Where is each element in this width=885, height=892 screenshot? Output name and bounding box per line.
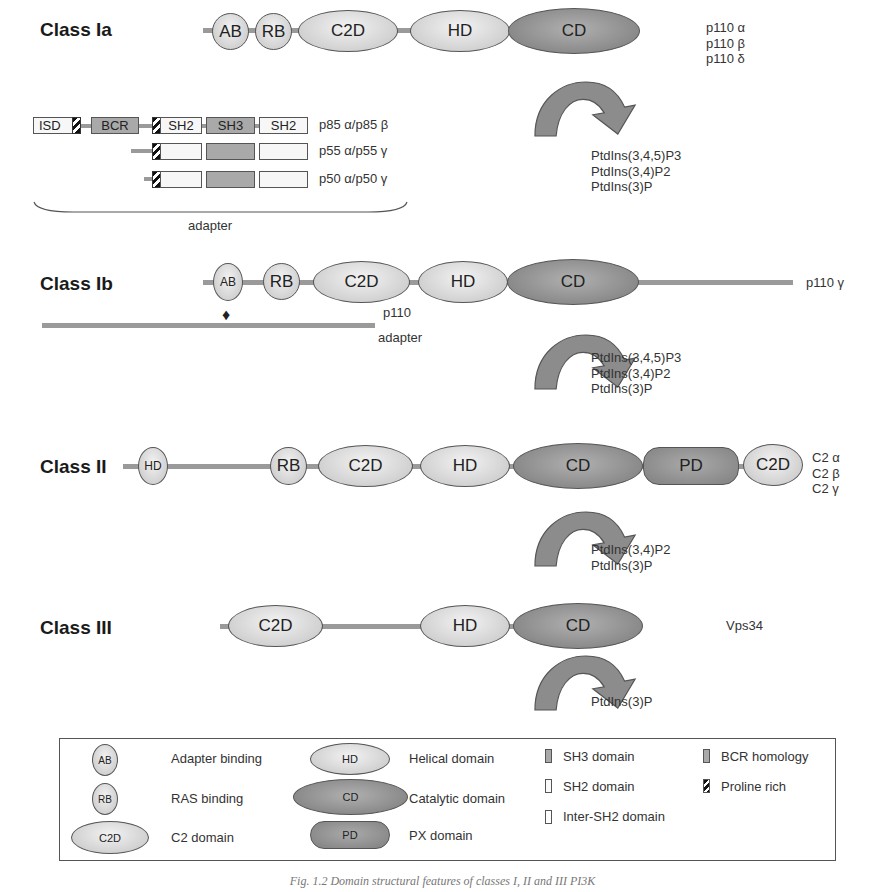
legend-label: SH3 domain <box>563 749 635 764</box>
product: PtdIns(3,4,5)P3 <box>591 148 681 164</box>
domain-hd: HD <box>410 10 510 52</box>
box-bcr: BCR <box>91 117 139 134</box>
domain-hd: HD <box>420 445 510 487</box>
legend-label: BCR homology <box>721 749 808 764</box>
legend-label: Proline rich <box>721 779 786 794</box>
legend-label: Catalytic domain <box>409 791 505 806</box>
box-sh3 <box>206 143 255 160</box>
legend-label: RAS binding <box>171 791 243 806</box>
legend-label: PX domain <box>409 828 473 843</box>
box-sh2: SH2 <box>160 117 202 134</box>
box-sh3: SH3 <box>206 117 255 134</box>
product: PtdIns(3)P <box>591 179 681 195</box>
box-sh3 <box>206 171 255 188</box>
legend-label: Inter-SH2 domain <box>563 809 665 824</box>
isoform: Vps34 <box>726 618 763 634</box>
domain-cd: CD <box>507 259 639 305</box>
domain-c2d: C2D <box>298 10 398 52</box>
isoform: p110 β <box>706 36 745 52</box>
isoform: p110 α <box>706 20 745 36</box>
legend-label: C2 domain <box>171 830 234 845</box>
adapter-label: p50 α/p50 γ <box>319 171 387 187</box>
legend-rb-icon: RB <box>92 783 118 815</box>
domain-rb: RB <box>263 263 300 300</box>
isoform-list: C2 α C2 β C2 γ <box>812 450 840 497</box>
domain-hd: HD <box>138 447 168 485</box>
adapter-line <box>42 323 375 328</box>
domain-cd: CD <box>513 603 643 649</box>
legend-pd-icon: PD <box>310 821 390 849</box>
adapter-label: p55 α/p55 γ <box>319 143 387 159</box>
class-ii-title: Class II <box>40 456 107 478</box>
product: PtdIns(3,4)P2 <box>591 164 681 180</box>
product-arrow-icon <box>533 80 639 138</box>
bcr-swatch-icon <box>703 749 710 763</box>
product: PtdIns(3,4,5)P3 <box>591 350 681 366</box>
proline-rich-icon <box>72 117 81 134</box>
box-sh2 <box>160 143 202 160</box>
isoform-list: p110 α p110 β p110 δ <box>706 20 745 67</box>
domain-c2d: C2D <box>228 605 323 647</box>
legend-hd-icon: HD <box>310 743 390 775</box>
domain-rb: RB <box>255 13 292 50</box>
product-list: PtdIns(3,4)P2 PtdIns(3)P <box>591 542 671 573</box>
domain-c2d: C2D <box>743 444 803 486</box>
legend-ab-icon: AB <box>92 744 118 776</box>
legend-label: Helical domain <box>409 751 494 766</box>
product: PtdIns(3)P <box>591 381 681 397</box>
inter-sh2-swatch-icon <box>545 810 552 824</box>
class-iii-title: Class III <box>40 617 112 639</box>
domain-ab: AB <box>213 263 243 301</box>
domain-cd: CD <box>513 443 643 489</box>
isoform: p110 γ <box>806 275 844 291</box>
product: PtdIns(3,4)P2 <box>591 542 671 558</box>
diamond-icon: ♦ <box>222 307 230 323</box>
brace-label: adapter <box>188 218 232 234</box>
isoform: C2 β <box>812 466 840 482</box>
adapter-label: p85 α/p85 β <box>319 117 388 133</box>
adapter-label: adapter <box>378 330 422 346</box>
product: PtdIns(3)P <box>591 558 671 574</box>
box-sh2 <box>259 171 308 188</box>
brace-icon <box>33 200 408 216</box>
domain-c2d: C2D <box>318 445 413 487</box>
legend: AB Adapter binding RB RAS binding C2D C2… <box>59 738 836 861</box>
class-ia-title: Class Ia <box>40 19 112 41</box>
legend-cd-icon: CD <box>293 779 408 815</box>
domain-c2d: C2D <box>313 261 410 303</box>
legend-label: SH2 domain <box>563 779 635 794</box>
proline-rich-swatch-icon <box>703 779 710 793</box>
box-sh2: SH2 <box>259 117 308 134</box>
box-sh2 <box>259 143 308 160</box>
sh2-swatch-icon <box>545 779 552 793</box>
domain-ab: AB <box>212 13 249 50</box>
product-list: PtdIns(3)P <box>591 694 652 710</box>
isoform: p110 δ <box>706 51 745 67</box>
legend-label: Adapter binding <box>171 751 262 766</box>
product: PtdIns(3)P <box>591 694 652 710</box>
p110-label: p110 <box>383 305 411 321</box>
product: PtdIns(3,4)P2 <box>591 366 681 382</box>
product-list: PtdIns(3,4,5)P3 PtdIns(3,4)P2 PtdIns(3)P <box>591 148 681 195</box>
box-sh2 <box>160 171 202 188</box>
domain-hd: HD <box>418 261 508 303</box>
domain-rb: RB <box>270 447 307 485</box>
isoform: C2 α <box>812 450 840 466</box>
domain-cd: CD <box>508 8 640 54</box>
legend-c2d-icon: C2D <box>71 821 149 854</box>
figure-caption: Fig. 1.2 Domain structural features of c… <box>0 874 885 889</box>
domain-pd: PD <box>643 447 739 485</box>
isoform: C2 γ <box>812 481 840 497</box>
box-isd: ISD <box>33 117 77 134</box>
product-list: PtdIns(3,4,5)P3 PtdIns(3,4)P2 PtdIns(3)P <box>591 350 681 397</box>
class-ib-title: Class Ib <box>40 273 113 295</box>
domain-hd: HD <box>420 605 510 647</box>
sh3-swatch-icon <box>545 749 552 763</box>
